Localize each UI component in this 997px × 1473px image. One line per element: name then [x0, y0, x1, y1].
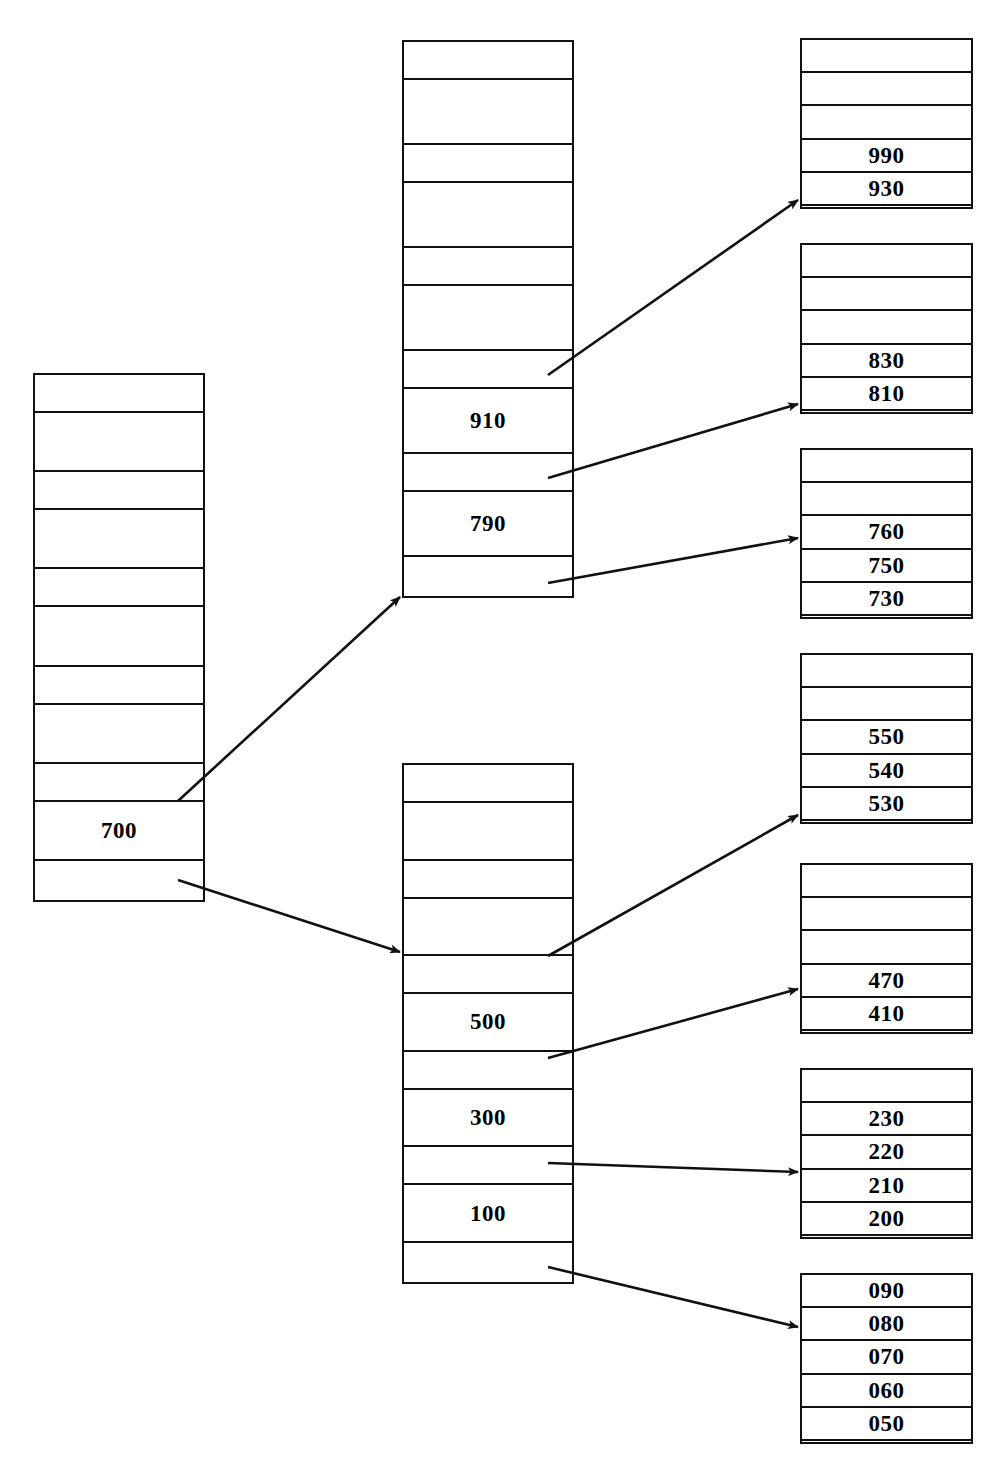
leaf-entry-empty[interactable] — [802, 655, 971, 688]
pointer-slot[interactable] — [404, 1243, 572, 1281]
leaf-entry-value: 200 — [869, 1207, 905, 1230]
key-cell-empty[interactable] — [404, 803, 572, 861]
arrow-branch-upper-to-leaf-2 — [548, 404, 798, 478]
key-cell[interactable]: 700 — [35, 802, 203, 861]
key-cell-empty[interactable] — [404, 286, 572, 351]
pointer-slot[interactable] — [35, 667, 203, 705]
leaf-entry-value: 210 — [869, 1174, 905, 1197]
leaf-entry[interactable]: 990 — [802, 140, 971, 173]
leaf-entry-value: 410 — [869, 1002, 905, 1025]
leaf-entry-empty[interactable] — [802, 483, 971, 516]
key-cell-empty[interactable] — [404, 183, 572, 248]
leaf-entry[interactable]: 540 — [802, 755, 971, 788]
pointer-slot[interactable] — [35, 764, 203, 802]
pointer-slot[interactable] — [404, 956, 572, 994]
leaf-node-1[interactable]: 990930 — [800, 38, 973, 209]
leaf-node-3[interactable]: 760750730 — [800, 448, 973, 619]
pointer-slot[interactable] — [404, 861, 572, 899]
leaf-entry-value: 930 — [869, 177, 905, 200]
pointer-slot[interactable] — [404, 1147, 572, 1185]
leaf-entry-empty[interactable] — [802, 1070, 971, 1103]
pointer-slot[interactable] — [35, 569, 203, 607]
leaf-entry[interactable]: 930 — [802, 173, 971, 206]
leaf-entry[interactable]: 070 — [802, 1341, 971, 1374]
key-cell[interactable]: 910 — [404, 389, 572, 454]
pointer-slot[interactable] — [404, 557, 572, 595]
pointer-slot[interactable] — [404, 765, 572, 803]
key-cell[interactable]: 300 — [404, 1090, 572, 1148]
key-cell-empty[interactable] — [404, 80, 572, 145]
leaf-entry-value: 760 — [869, 520, 905, 543]
key-value: 700 — [101, 819, 137, 842]
key-cell[interactable]: 790 — [404, 492, 572, 557]
leaf-entry-empty[interactable] — [802, 865, 971, 898]
arrow-branch-lower-to-leaf-4 — [548, 815, 798, 956]
leaf-entry[interactable]: 230 — [802, 1103, 971, 1136]
leaf-entry[interactable]: 750 — [802, 550, 971, 583]
key-cell-empty[interactable] — [35, 413, 203, 472]
key-cell[interactable]: 500 — [404, 994, 572, 1052]
leaf-entry-value: 070 — [869, 1345, 905, 1368]
leaf-node-4[interactable]: 550540530 — [800, 653, 973, 824]
pointer-slot[interactable] — [404, 248, 572, 286]
leaf-entry[interactable]: 060 — [802, 1375, 971, 1408]
pointer-slot[interactable] — [404, 351, 572, 389]
arrow-root-to-branch-lower — [178, 880, 400, 952]
leaf-node-6[interactable]: 230220210200 — [800, 1068, 973, 1239]
leaf-entry-empty[interactable] — [802, 450, 971, 483]
leaf-entry[interactable]: 550 — [802, 721, 971, 754]
leaf-entry[interactable]: 830 — [802, 345, 971, 378]
leaf-entry[interactable]: 470 — [802, 965, 971, 998]
leaf-entry[interactable]: 200 — [802, 1203, 971, 1236]
pointer-slot[interactable] — [404, 42, 572, 80]
leaf-entry[interactable]: 410 — [802, 998, 971, 1031]
leaf-entry[interactable]: 760 — [802, 516, 971, 549]
arrow-branch-upper-to-leaf-1 — [548, 200, 798, 375]
leaf-entry[interactable]: 730 — [802, 583, 971, 616]
root-node[interactable]: 700 — [33, 373, 205, 902]
leaf-entry-value: 830 — [869, 349, 905, 372]
pointer-slot[interactable] — [404, 145, 572, 183]
leaf-entry[interactable]: 050 — [802, 1408, 971, 1441]
key-value: 790 — [470, 512, 506, 535]
arrow-branch-upper-to-leaf-3 — [548, 538, 798, 583]
leaf-entry[interactable]: 220 — [802, 1136, 971, 1169]
leaf-entry-empty[interactable] — [802, 73, 971, 106]
pointer-slot[interactable] — [35, 472, 203, 510]
leaf-node-5[interactable]: 470410 — [800, 863, 973, 1034]
leaf-entry-empty[interactable] — [802, 106, 971, 139]
leaf-entry[interactable]: 090 — [802, 1275, 971, 1308]
key-cell-empty[interactable] — [404, 899, 572, 957]
key-cell[interactable]: 100 — [404, 1185, 572, 1243]
leaf-entry[interactable]: 210 — [802, 1170, 971, 1203]
leaf-entry-value: 230 — [869, 1107, 905, 1130]
key-cell-empty[interactable] — [35, 607, 203, 666]
branch-node-upper[interactable]: 910790 — [402, 40, 574, 598]
leaf-entry-empty[interactable] — [802, 311, 971, 344]
leaf-entry-value: 540 — [869, 759, 905, 782]
pointer-slot[interactable] — [35, 375, 203, 413]
leaf-entry-empty[interactable] — [802, 931, 971, 964]
leaf-node-2[interactable]: 830810 — [800, 243, 973, 414]
key-cell-empty[interactable] — [35, 705, 203, 764]
leaf-entry-value: 530 — [869, 792, 905, 815]
pointer-slot[interactable] — [404, 454, 572, 492]
key-cell-empty[interactable] — [35, 510, 203, 569]
leaf-entry-empty[interactable] — [802, 278, 971, 311]
leaf-entry-empty[interactable] — [802, 688, 971, 721]
leaf-entry-value: 080 — [869, 1312, 905, 1335]
leaf-entry-value: 990 — [869, 144, 905, 167]
leaf-entry[interactable]: 810 — [802, 378, 971, 411]
leaf-entry[interactable]: 530 — [802, 788, 971, 821]
leaf-entry[interactable]: 080 — [802, 1308, 971, 1341]
key-value: 100 — [470, 1202, 506, 1225]
leaf-entry-empty[interactable] — [802, 245, 971, 278]
pointer-slot[interactable] — [404, 1052, 572, 1090]
key-value: 910 — [470, 409, 506, 432]
leaf-entry-empty[interactable] — [802, 898, 971, 931]
pointer-slot[interactable] — [35, 861, 203, 899]
arrow-root-to-branch-upper — [178, 597, 400, 801]
leaf-node-7[interactable]: 090080070060050 — [800, 1273, 973, 1444]
branch-node-lower[interactable]: 500300100 — [402, 763, 574, 1284]
leaf-entry-empty[interactable] — [802, 40, 971, 73]
